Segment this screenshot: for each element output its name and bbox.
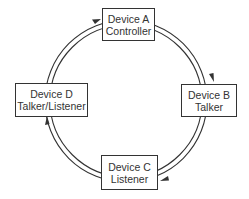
device-c-role: Listener xyxy=(111,173,148,185)
device-d-name: Device D xyxy=(30,88,73,100)
device-b-name: Device B xyxy=(188,89,230,101)
device-c-box: Device C Listener xyxy=(101,155,158,190)
device-c-name: Device C xyxy=(108,161,151,173)
device-a-role: Controller xyxy=(106,25,152,37)
device-a-name: Device A xyxy=(108,13,149,25)
device-a-box: Device A Controller xyxy=(102,8,155,41)
arrow-d-to-a-icon xyxy=(92,19,101,24)
arrow-b-to-c-icon xyxy=(160,176,169,181)
device-d-box: Device D Talker/Listener xyxy=(15,83,88,117)
device-d-role: Talker/Listener xyxy=(17,100,85,112)
device-b-box: Device B Talker xyxy=(181,84,237,117)
arrow-c-to-d-icon xyxy=(45,116,50,125)
arrow-a-to-b-icon xyxy=(209,73,214,82)
device-b-role: Talker xyxy=(195,101,223,113)
